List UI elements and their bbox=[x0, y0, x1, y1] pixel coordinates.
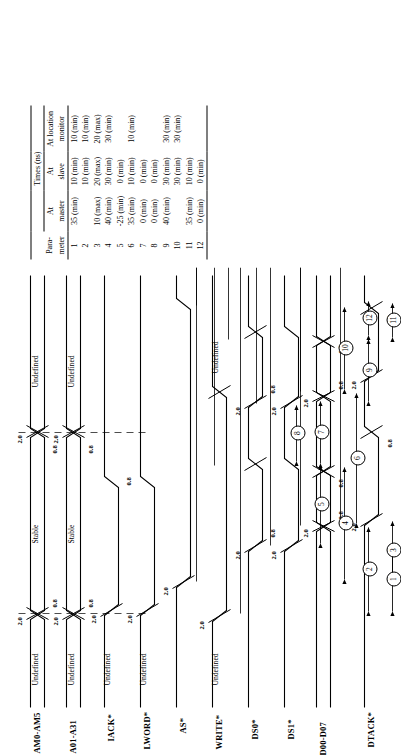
cell-at-slave: 0 (min) bbox=[137, 151, 149, 190]
marker-2: 2 bbox=[362, 561, 377, 576]
cell-at-location-monitor bbox=[114, 105, 126, 151]
cell-at-slave: 30 (min) bbox=[102, 151, 114, 190]
voltage-label-2v0: 2.0 bbox=[233, 551, 240, 559]
col-header-at-master-line2: master bbox=[55, 190, 67, 230]
cell-at-master: 40 (min) bbox=[160, 190, 172, 230]
marker-4: 4 bbox=[338, 515, 353, 530]
cell-at-location-monitor bbox=[148, 105, 160, 151]
voltage-label-0v8: 0.8 bbox=[268, 529, 275, 537]
times-table-header-row-line2: meter master slave monitor bbox=[55, 105, 67, 259]
cell-at-slave: 30 (min) bbox=[160, 151, 172, 190]
marker-8: 8 bbox=[290, 425, 305, 440]
measurement-canvas bbox=[0, 267, 401, 737]
cell-at-slave: 10 (min) bbox=[183, 151, 195, 190]
times-table-group-header-row: Times (ns) bbox=[31, 105, 44, 259]
signal-label-write: WRITE* bbox=[213, 714, 223, 749]
cell-at-master: 35 (min) bbox=[67, 190, 79, 230]
marker-6: 6 bbox=[350, 450, 365, 465]
table-row: 6 35 (min) 10 (min) 10 (min) bbox=[125, 105, 137, 259]
cell-at-master: 0 (min) bbox=[137, 190, 149, 230]
signal-label-a01-a31: A01-A31 bbox=[67, 719, 77, 753]
voltage-label-0v8: 0.8 bbox=[50, 445, 57, 453]
cell-at-slave: 0 (min) bbox=[114, 151, 126, 190]
cell-at-location-monitor: 20 (max) bbox=[91, 105, 103, 151]
voltage-label-2v0: 2.0 bbox=[301, 399, 308, 407]
cell-parameter: 7 bbox=[137, 231, 149, 259]
signal-label-dtack: DTACK* bbox=[365, 711, 375, 747]
col-header-at-location-monitor-line1: At location bbox=[43, 105, 55, 151]
voltage-label-0v8: 0.8 bbox=[336, 381, 343, 389]
voltage-label-0v8: 0.8 bbox=[86, 599, 93, 607]
col-header-parameter-line1: Para- bbox=[43, 231, 55, 259]
voltage-label-2v0: 2.0 bbox=[197, 621, 204, 629]
group-header-times-ns: Times (ns) bbox=[31, 105, 44, 230]
voltage-label-2v0: 2.0 bbox=[269, 551, 276, 559]
col-header-at-slave-line1: At bbox=[43, 151, 55, 190]
cell-at-master: -25 (min) bbox=[114, 190, 126, 230]
state-label-write-undefined-1: Undefined bbox=[210, 653, 219, 685]
cell-at-location-monitor bbox=[183, 105, 195, 151]
voltage-label-2v0: 2.0 bbox=[15, 617, 22, 625]
marker-12: 12 bbox=[362, 310, 377, 325]
cell-at-master bbox=[79, 190, 91, 230]
table-row: 11 35 (min) 10 (min) bbox=[183, 105, 195, 259]
cell-at-master: 35 (min) bbox=[183, 190, 195, 230]
table-row: 9 40 (min) 30 (min) 30 (min) bbox=[160, 105, 172, 259]
signal-label-d00-d07: D00-D07 bbox=[317, 721, 327, 755]
signal-label-as: AS* bbox=[177, 717, 187, 733]
cell-at-location-monitor: 30 (min) bbox=[160, 105, 172, 151]
cell-at-slave: 30 (min) bbox=[171, 151, 183, 190]
marker-9: 9 bbox=[362, 362, 377, 377]
cell-parameter: 1 bbox=[67, 231, 79, 259]
state-label-write-undefined-2: Undefined bbox=[210, 341, 219, 373]
marker-1: 1 bbox=[386, 571, 401, 586]
marker-11: 11 bbox=[386, 312, 401, 327]
times-table-body: 1 35 (min) 10 (min) 10 (min) 2 10 (min) … bbox=[67, 105, 206, 259]
state-label-am-undefined-1: Undefined bbox=[30, 653, 39, 685]
times-table-header-row-line1: Para- At At At location bbox=[43, 105, 55, 259]
table-row: 2 10 (min) 10 (min) bbox=[79, 105, 91, 259]
voltage-label-0v8: 0.8 bbox=[268, 385, 275, 393]
state-label-am-stable: Stable bbox=[30, 524, 39, 543]
signal-label-ds0: DS0* bbox=[249, 719, 259, 739]
voltage-label-0v8: 0.8 bbox=[50, 599, 57, 607]
table-row: 1 35 (min) 10 (min) 10 (min) bbox=[67, 105, 79, 259]
voltage-label-2v0: 2.0 bbox=[51, 617, 58, 625]
marker-3: 3 bbox=[386, 542, 401, 557]
col-header-parameter-line2: meter bbox=[55, 231, 67, 259]
cell-parameter: 6 bbox=[125, 231, 137, 259]
cell-at-slave: 0 (min) bbox=[194, 151, 206, 190]
cell-at-slave: 20 (max) bbox=[91, 151, 103, 190]
cell-at-slave: 0 (min) bbox=[148, 151, 160, 190]
voltage-label-2v0: 2.0 bbox=[269, 407, 276, 415]
cell-at-location-monitor bbox=[194, 105, 206, 151]
timing-diagram: AM0-AM5 A01-A31 IACK* LWORD* AS* WRITE* … bbox=[0, 267, 401, 737]
state-label-a01-undefined-1: Undefined bbox=[66, 653, 75, 685]
times-table: Times (ns) Para- At At At location meter… bbox=[30, 105, 207, 259]
col-header-at-master-line1: At bbox=[43, 190, 55, 230]
cell-at-master: 35 (min) bbox=[125, 190, 137, 230]
state-label-a01-undefined-2: Undefined bbox=[66, 355, 75, 387]
voltage-label-2v0: 2.0 bbox=[89, 615, 96, 623]
cell-at-master: 10 (max) bbox=[91, 190, 103, 230]
voltage-label-2v0: 2.0 bbox=[15, 435, 22, 443]
cell-at-master: 0 (min) bbox=[194, 190, 206, 230]
signal-label-iack: IACK* bbox=[105, 714, 115, 741]
signal-label-ds1: DS1* bbox=[285, 719, 295, 739]
cell-parameter: 11 bbox=[183, 231, 195, 259]
voltage-label-2v0: 2.0 bbox=[349, 381, 356, 389]
table-row: 5 -25 (min) 0 (min) bbox=[114, 105, 126, 259]
marker-10: 10 bbox=[338, 340, 353, 355]
col-header-at-slave-line2: slave bbox=[55, 151, 67, 190]
col-header-at-location-monitor-line2: monitor bbox=[55, 105, 67, 151]
table-row: 8 0 (min) 0 (min) bbox=[148, 105, 160, 259]
voltage-label-2v0: 2.0 bbox=[161, 587, 168, 595]
cell-at-slave: 10 (min) bbox=[67, 151, 79, 190]
table-row: 4 40 (min) 30 (min) 30 (min) bbox=[102, 105, 114, 259]
voltage-label-2v0: 2.0 bbox=[233, 407, 240, 415]
cell-parameter: 10 bbox=[171, 231, 183, 259]
spacer-cell bbox=[31, 231, 44, 259]
voltage-label-0v8: 0.8 bbox=[124, 477, 131, 485]
voltage-label-0v8: 0.8 bbox=[86, 445, 93, 453]
state-label-iack-undefined: Undefined bbox=[102, 653, 111, 685]
